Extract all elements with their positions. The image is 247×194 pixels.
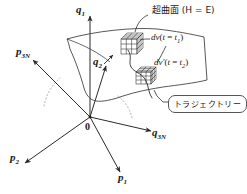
volume-element-cube-2 bbox=[136, 67, 156, 84]
axis-label-p2: p2 bbox=[10, 152, 19, 166]
dv1-eq: = bbox=[165, 32, 175, 42]
axis-label-q3N: q3N bbox=[152, 127, 166, 141]
volume-element-label-2: dv′(t = t2) bbox=[154, 58, 188, 69]
axis-sub-p1: 1 bbox=[124, 178, 128, 186]
dv2-text: dv bbox=[154, 57, 163, 67]
axis-label-q1: q1 bbox=[76, 4, 85, 18]
axis-sub-q1: 1 bbox=[82, 10, 86, 18]
dv2-eq: = bbox=[170, 57, 180, 67]
axis-sub-p2: 2 bbox=[16, 158, 20, 166]
q2-pointer bbox=[104, 55, 113, 64]
axis-label-q2: q2 bbox=[93, 56, 102, 70]
dv1-close: ) bbox=[180, 32, 183, 42]
dv2-close: ) bbox=[185, 57, 188, 67]
dv1-text: dv bbox=[151, 32, 160, 42]
trajectory-curve bbox=[128, 50, 152, 98]
origin-point bbox=[89, 116, 92, 119]
origin-label: 0 bbox=[85, 122, 90, 132]
axis-label-p3N: p3N bbox=[16, 46, 30, 60]
axis-q2 bbox=[90, 66, 106, 117]
axis-p3N bbox=[33, 60, 90, 117]
angle-arc-right bbox=[118, 96, 132, 118]
axis-sub-p3N: 3N bbox=[22, 52, 31, 60]
axis-p2 bbox=[25, 117, 90, 163]
leader-hypersurface bbox=[135, 15, 148, 32]
phase-space-diagram: 超曲面 (H = E) dv(t = t1) dv′(t = t2) トラジェク… bbox=[0, 0, 247, 194]
volume-element-cube-1 bbox=[121, 33, 143, 54]
axis-sub-q2: 2 bbox=[99, 62, 103, 70]
hypersurface-label: 超曲面 (H = E) bbox=[152, 6, 215, 15]
axis-sub-q3N: 3N bbox=[158, 133, 167, 141]
axis-p1 bbox=[90, 117, 120, 172]
trajectory-callout: トラジェクトリー bbox=[168, 95, 247, 113]
axis-q3N bbox=[90, 117, 151, 131]
axis-label-p1: p1 bbox=[118, 172, 127, 186]
volume-element-label-1: dv(t = t1) bbox=[151, 33, 183, 44]
angle-arc-left bbox=[44, 78, 60, 106]
